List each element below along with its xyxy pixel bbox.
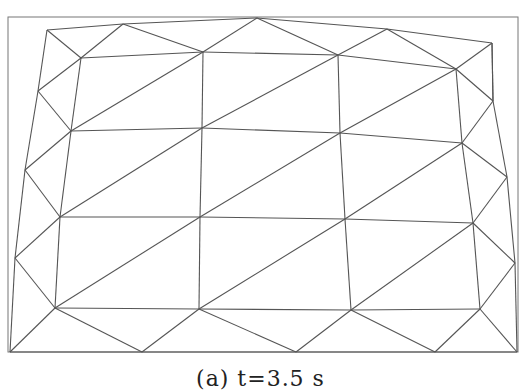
mesh-edge xyxy=(340,133,345,219)
mesh-edge xyxy=(10,258,15,352)
mesh-edge xyxy=(55,308,142,352)
mesh-edge xyxy=(456,43,492,69)
mesh-edge xyxy=(60,131,71,217)
mesh-edge xyxy=(203,52,338,55)
mesh-edge xyxy=(199,217,200,309)
mesh-edge xyxy=(296,310,351,352)
mesh-edges xyxy=(10,18,517,352)
mesh-edge xyxy=(351,310,435,352)
mesh-edge xyxy=(480,309,517,352)
mesh-edge xyxy=(60,128,202,217)
mesh-edge xyxy=(338,55,456,69)
mesh-edge xyxy=(351,223,473,310)
mesh-edge xyxy=(47,30,81,58)
mesh-edge xyxy=(71,58,81,131)
mesh-edge xyxy=(15,170,25,258)
mesh-edge xyxy=(340,69,456,133)
mesh-edge xyxy=(81,24,123,58)
mesh-edge xyxy=(199,309,351,310)
mesh-edge xyxy=(200,133,340,217)
mesh-edge xyxy=(338,55,340,133)
mesh-edge xyxy=(25,131,71,170)
mesh-edge xyxy=(142,309,199,352)
mesh-edge xyxy=(10,308,55,352)
mesh-edge xyxy=(202,128,340,133)
figure-caption: (a) t=3.5 s xyxy=(0,366,521,391)
mesh-edge xyxy=(47,24,123,30)
mesh-edge xyxy=(199,219,345,309)
mesh-edge xyxy=(387,29,456,69)
mesh-edge xyxy=(55,217,200,308)
mesh-edge xyxy=(473,223,480,309)
mesh-edge xyxy=(38,58,81,91)
mesh-edge xyxy=(480,263,515,309)
mesh-edge xyxy=(338,29,387,55)
mesh-edge xyxy=(435,309,480,352)
mesh-edge xyxy=(71,52,203,131)
mesh-edge xyxy=(38,30,47,91)
mesh-edge xyxy=(492,43,493,101)
mesh-edge xyxy=(38,91,71,131)
mesh-edge xyxy=(55,217,60,308)
mesh-edge xyxy=(25,170,60,217)
mesh-edge xyxy=(493,101,507,177)
mesh-edge xyxy=(351,309,480,310)
mesh-edge xyxy=(202,55,338,128)
mesh-edge xyxy=(199,309,296,352)
mesh-edge xyxy=(203,18,257,52)
mesh-edge xyxy=(340,133,462,143)
mesh-edge xyxy=(507,177,515,263)
mesh-edge xyxy=(462,143,507,177)
mesh-edge xyxy=(473,223,515,263)
mesh-edge xyxy=(123,24,203,52)
mesh-edge xyxy=(456,69,462,143)
mesh-edge xyxy=(456,69,493,101)
mesh-edge xyxy=(71,128,202,131)
mesh-edge xyxy=(81,52,203,58)
mesh-edge xyxy=(202,52,203,128)
mesh-edge xyxy=(345,143,462,219)
mesh-edge xyxy=(15,258,55,308)
mesh-edge xyxy=(387,29,492,43)
mesh-edge xyxy=(462,101,493,143)
mesh-edge xyxy=(473,177,507,223)
mesh-edge xyxy=(515,263,517,352)
mesh-edge xyxy=(345,219,473,223)
mesh-edge xyxy=(200,217,345,219)
mesh-edge xyxy=(200,128,202,217)
mesh-edge xyxy=(15,217,60,258)
mesh-edge xyxy=(345,219,351,310)
mesh-edge xyxy=(462,143,473,223)
mesh-edge xyxy=(123,18,257,24)
mesh-edge xyxy=(55,308,199,309)
mesh-edge xyxy=(25,91,38,170)
